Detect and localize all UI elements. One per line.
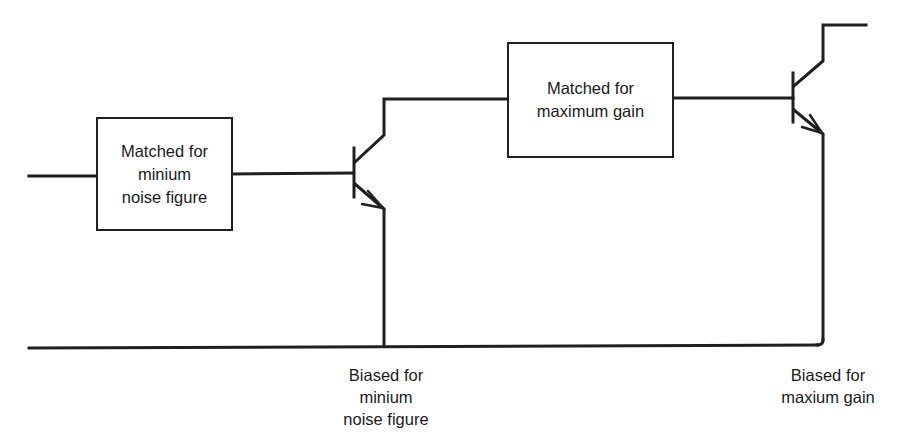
block-label-line: minium: [121, 163, 208, 186]
q2-bias-label: Biased for maxium gain: [768, 364, 888, 408]
bias-label-line: maxium gain: [768, 386, 888, 408]
q1-base-wire: [232, 173, 353, 174]
ground-line: [29, 345, 818, 348]
input-matching-block: Matched for minium noise figure: [96, 117, 233, 231]
bias-label-line: noise figure: [318, 408, 454, 430]
q1-collector-wire: [355, 99, 508, 162]
bias-label-line: Biased for: [318, 364, 454, 386]
interstage-matching-block: Matched for maximum gain: [507, 42, 674, 158]
block-label-line: maximum gain: [537, 100, 644, 123]
block-label-line: Matched for: [537, 77, 644, 100]
bias-label-line: Biased for: [768, 364, 888, 386]
bias-label-line: minium: [318, 386, 454, 408]
q2-collector-wire: [794, 25, 866, 86]
block-label-line: Matched for: [121, 140, 208, 163]
q2-emitter-wire: [794, 110, 823, 340]
block-label-line: noise figure: [121, 186, 208, 209]
q1-bias-label: Biased for minium noise figure: [318, 364, 454, 430]
